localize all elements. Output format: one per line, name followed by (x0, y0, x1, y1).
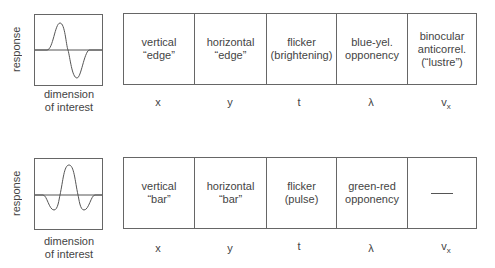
bar-row: response dimension of interest vertical … (0, 0, 495, 120)
cell-vertical-bar: vertical “bar” (124, 158, 195, 228)
bar-feature-table: vertical “bar” horizontal “bar” flicker … (123, 157, 477, 229)
cell-green-red-opponency: green-red opponency (337, 158, 408, 228)
x-axis-label: dimension of interest (28, 235, 110, 261)
dimension-lambda: λ (361, 242, 381, 254)
dimension-vx: vx (434, 240, 458, 255)
dash-icon (431, 193, 453, 194)
dimension-y: y (220, 242, 240, 254)
cell-horizontal-bar: horizontal “bar” (195, 158, 267, 228)
dimension-x: x (148, 242, 168, 254)
even-symmetric-profile-plot (34, 158, 103, 230)
y-axis-label: response (10, 162, 24, 224)
cell-empty-dash (408, 158, 476, 228)
cell-flicker-pulse: flicker (pulse) (267, 158, 337, 228)
even-symmetric-curve-icon (35, 159, 102, 229)
dimension-t: t (289, 240, 309, 252)
